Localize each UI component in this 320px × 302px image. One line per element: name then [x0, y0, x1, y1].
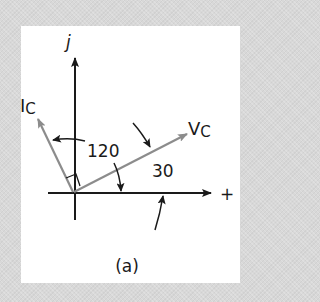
- real-axis-label: +: [220, 184, 234, 204]
- voltage-phasor-subscript: C: [200, 123, 210, 141]
- phasor-diagram: j + IC VC 120 30 (a): [0, 0, 254, 302]
- current-phasor-subscript: C: [25, 100, 35, 118]
- angle-120-label: 120: [87, 141, 119, 161]
- voltage-pointer-arrow: [133, 123, 150, 147]
- current-phasor-label: IC: [20, 95, 36, 118]
- imaginary-axis-label: j: [64, 32, 71, 52]
- angle-30-label: 30: [152, 161, 174, 181]
- current-phasor-arrow: [38, 119, 73, 192]
- real-axis-pointer-arrow: [155, 196, 163, 230]
- figure-caption: (a): [115, 256, 139, 276]
- angle-120-arc-arrow: [53, 139, 85, 141]
- voltage-phasor-label: VC: [188, 118, 211, 141]
- voltage-phasor-name: V: [188, 118, 201, 139]
